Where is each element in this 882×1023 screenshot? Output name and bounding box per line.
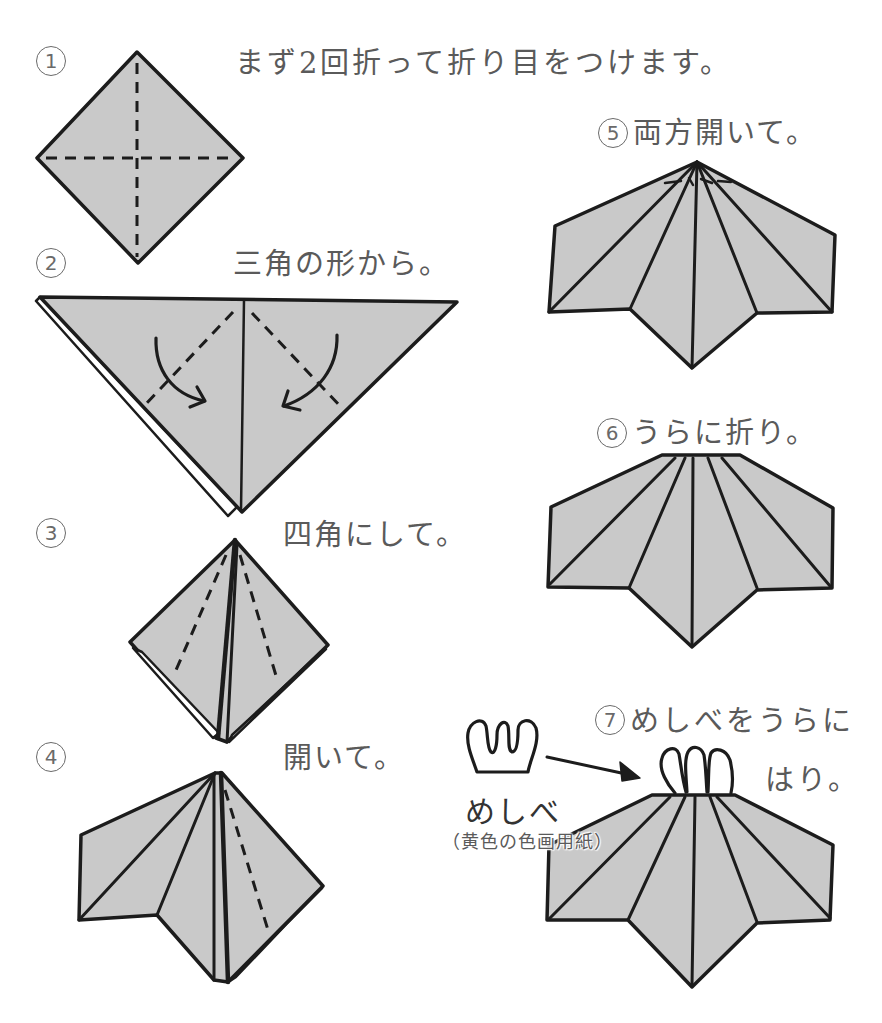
step-4-caption: 開いて。 — [283, 743, 405, 773]
step-4-diagram — [79, 773, 323, 982]
step-3-marker: 3 — [36, 518, 66, 548]
attach-arrow-shaft — [547, 757, 626, 774]
paper-triangle — [40, 297, 457, 512]
step-2-marker: 2 — [36, 248, 66, 278]
step-4-marker: 4 — [36, 742, 66, 772]
step-7-caption-continued: はり。 — [765, 765, 860, 795]
origami-instruction-sheet: 1 まず2回折って折り目をつけます。 2 三角の形から。 3 四角にして。 4 … — [0, 0, 882, 1023]
attached-pistil-icon — [661, 747, 732, 793]
pleat-line-3 — [692, 458, 693, 645]
step-6-caption: うらに折り。 — [632, 418, 817, 448]
step-7-diagram — [468, 721, 833, 987]
pistil-material-note: （黄色の色画用紙） — [442, 832, 613, 852]
step-1-marker: 1 — [36, 46, 66, 76]
step-7-marker: 7 — [595, 705, 625, 735]
step-6-diagram — [548, 455, 833, 647]
step-1-caption: まず2回折って折り目をつけます。 — [235, 48, 732, 78]
pistil-label: めしべ — [465, 797, 561, 827]
paper-tip-folded — [548, 455, 833, 647]
step-2-caption: 三角の形から。 — [233, 249, 450, 279]
step-1-diagram — [37, 52, 243, 263]
step-7-caption: めしべをうらに — [630, 706, 854, 736]
step-3-caption: 四角にして。 — [283, 520, 467, 550]
attach-arrow-icon — [620, 762, 640, 781]
step-3-diagram — [130, 540, 328, 742]
step-5-diagram — [549, 162, 835, 368]
step-5-marker: 5 — [598, 118, 628, 148]
step-5-caption: 両方開いて。 — [633, 118, 817, 148]
pistil-cutout-icon — [468, 721, 537, 772]
step-2-diagram — [36, 297, 457, 516]
step-6-marker: 6 — [597, 418, 627, 448]
paper-finished-flower — [547, 795, 833, 987]
diagram-artwork — [0, 0, 882, 1023]
